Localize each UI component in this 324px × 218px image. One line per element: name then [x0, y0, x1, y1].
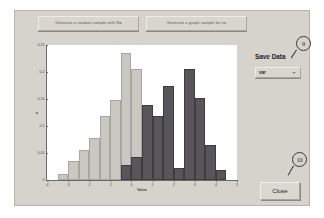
histogram-bar: [195, 98, 206, 180]
histogram-bar: [163, 86, 174, 181]
histogram-bar: [205, 145, 216, 180]
histogram-bar: [79, 150, 90, 180]
x-axis-tick-label: 3: [194, 183, 196, 187]
histogram-bars: [47, 45, 237, 180]
histogram-bar: [142, 105, 153, 180]
y-axis-tick-label: 0.15: [38, 97, 45, 101]
histogram-bar: [100, 116, 111, 180]
x-axis-tick-label: -2: [88, 183, 91, 187]
x-axis-tick-label: -1: [109, 183, 112, 187]
histogram-bar: [110, 100, 121, 180]
x-axis-tick-label: -4: [45, 183, 48, 187]
histogram-bar: [153, 116, 164, 180]
histogram-bar: [216, 170, 227, 180]
variable-name-value: var: [259, 70, 266, 75]
y-axis-tick-label: 0.05: [38, 151, 45, 155]
histogram-bar: [131, 157, 142, 180]
histogram-dialog: Generate a random sample with N= Generat…: [14, 10, 310, 206]
y-axis-tick-label: 0: [43, 178, 45, 182]
x-axis-tick-label: 4: [215, 183, 217, 187]
histogram-bar: [121, 53, 132, 180]
generate-sample-button[interactable]: Generate a random sample with N=: [38, 16, 139, 31]
x-axis-title: Value: [137, 188, 147, 192]
callout-marker-10: 10: [292, 152, 307, 167]
plot-area: 00.050.10.150.20.25 -4-3-2-1012345 n Val…: [46, 45, 237, 181]
save-data-label: Save Data: [255, 53, 286, 60]
histogram-bar: [174, 168, 185, 180]
histogram-panel: 00.050.10.150.20.25 -4-3-2-1012345 n Val…: [24, 39, 246, 201]
variable-name-input[interactable]: var: [255, 67, 301, 78]
histogram-bar: [68, 161, 79, 180]
close-button[interactable]: Close: [260, 182, 300, 200]
x-axis-tick-label: 5: [236, 183, 238, 187]
histogram-bar: [184, 69, 195, 180]
y-axis-title: n: [35, 111, 39, 113]
y-axis-tick-label: 0.2: [40, 70, 45, 74]
callout-marker-9: 9: [296, 36, 311, 51]
histogram-bar: [89, 138, 100, 180]
histogram-bar: [121, 165, 132, 180]
x-axis-tick-label: 0: [130, 183, 132, 187]
histogram-bar: [58, 174, 69, 180]
chevron-down-icon[interactable]: [292, 72, 296, 74]
x-axis-tick-label: -3: [67, 183, 70, 187]
y-axis-tick-label: 0.25: [38, 43, 45, 47]
y-axis-tick-label: 0.1: [40, 124, 45, 128]
x-axis-tick-label: 2: [173, 183, 175, 187]
x-axis-tick-label: 1: [152, 183, 154, 187]
generate-plot-button[interactable]: Generate a graph sample for n=: [146, 16, 247, 31]
